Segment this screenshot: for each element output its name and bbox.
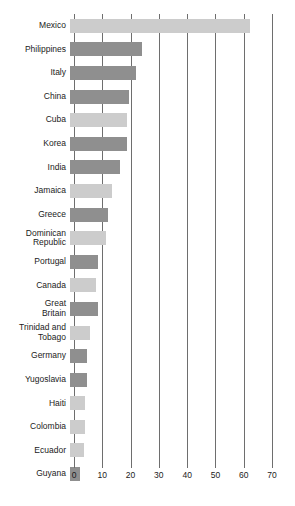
bar [70, 184, 112, 198]
bar-row: Italy [0, 61, 295, 85]
bar-cell [70, 179, 295, 203]
bar-row: China [0, 85, 295, 109]
tick-mark-20 [131, 461, 132, 468]
bar [70, 326, 90, 340]
bar-row: Canada [0, 274, 295, 298]
bar-cell [70, 203, 295, 227]
bar-cell [70, 108, 295, 132]
bar-cell [70, 250, 295, 274]
category-label: Mexico [0, 21, 70, 31]
bar-row: Portugal [0, 250, 295, 274]
tick-label-40: 40 [182, 470, 191, 480]
bar-row: Mexico [0, 14, 295, 38]
bar-row: Haiti [0, 392, 295, 416]
bar [70, 208, 108, 222]
tick-label-30: 30 [154, 470, 163, 480]
bar-cell [70, 156, 295, 180]
category-label: Dominican Republic [0, 229, 70, 248]
category-label: Ecuador [0, 446, 70, 456]
category-label: Portugal [0, 257, 70, 267]
bar [70, 443, 84, 457]
bar [70, 160, 120, 174]
bar-row: Korea [0, 132, 295, 156]
bar [70, 19, 250, 33]
bar-cell [70, 439, 295, 463]
bar [70, 42, 142, 56]
bar-cell [70, 344, 295, 368]
category-label: Great Britain [0, 299, 70, 318]
bar-row: India [0, 156, 295, 180]
category-label: Trinidad and Tobago [0, 323, 70, 342]
bar-row: Philippines [0, 38, 295, 62]
bar [70, 373, 87, 387]
bar-cell [70, 14, 295, 38]
bar-row: Great Britain [0, 297, 295, 321]
tick-mark-0 [74, 461, 75, 468]
bar-cell [70, 392, 295, 416]
bar-row: Germany [0, 344, 295, 368]
bar-row: Jamaica [0, 179, 295, 203]
tick-mark-60 [244, 461, 245, 468]
bar-row: Ecuador [0, 439, 295, 463]
category-label: Yugoslavia [0, 375, 70, 385]
bar-rows: MexicoPhilippinesItalyChinaCubaKoreaIndi… [0, 14, 295, 486]
category-label: Korea [0, 139, 70, 149]
bar-row: Colombia [0, 415, 295, 439]
category-label: Colombia [0, 422, 70, 432]
bar-cell [70, 38, 295, 62]
bar [70, 137, 127, 151]
category-label: Guyana [0, 469, 70, 479]
category-label: Greece [0, 210, 70, 220]
tick-label-10: 10 [98, 470, 107, 480]
tick-mark-30 [159, 461, 160, 468]
tick-label-70: 70 [267, 470, 276, 480]
tick-label-50: 50 [211, 470, 220, 480]
bar [70, 66, 136, 80]
bar-row: Cuba [0, 108, 295, 132]
bar-chart: MexicoPhilippinesItalyChinaCubaKoreaIndi… [0, 0, 295, 506]
tick-label-0: 0 [72, 470, 77, 480]
category-label: Canada [0, 281, 70, 291]
bar [70, 90, 129, 104]
tick-mark-40 [187, 461, 188, 468]
bar-row: Dominican Republic [0, 226, 295, 250]
x-axis [74, 466, 272, 467]
bar [70, 231, 106, 245]
category-label: Philippines [0, 45, 70, 55]
bar-cell [70, 61, 295, 85]
bar [70, 255, 98, 269]
bar-cell [70, 321, 295, 345]
tick-mark-10 [102, 461, 103, 468]
tick-label-60: 60 [239, 470, 248, 480]
bar-row: Yugoslavia [0, 368, 295, 392]
category-label: Jamaica [0, 186, 70, 196]
bar [70, 420, 85, 434]
bar [70, 349, 87, 363]
category-label: India [0, 163, 70, 173]
bar [70, 113, 127, 127]
bar [70, 396, 85, 410]
bar-cell [70, 297, 295, 321]
bar-row: Greece [0, 203, 295, 227]
tick-mark-50 [215, 461, 216, 468]
bar-cell [70, 415, 295, 439]
tick-label-20: 20 [126, 470, 135, 480]
category-label: Cuba [0, 115, 70, 125]
category-label: Italy [0, 68, 70, 78]
bar [70, 302, 98, 316]
bar-cell [70, 85, 295, 109]
bar [70, 278, 96, 292]
bar-cell [70, 226, 295, 250]
category-label: Germany [0, 351, 70, 361]
category-label: China [0, 92, 70, 102]
tick-mark-70 [272, 461, 273, 468]
bar-cell [70, 274, 295, 298]
bar-row: Trinidad and Tobago [0, 321, 295, 345]
category-label: Haiti [0, 399, 70, 409]
bar-cell [70, 368, 295, 392]
bar-cell [70, 132, 295, 156]
